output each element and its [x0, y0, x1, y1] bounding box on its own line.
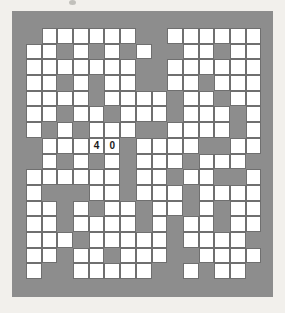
grid-cell-open[interactable]	[246, 138, 262, 154]
grid-cell-open[interactable]	[167, 59, 183, 75]
grid-cell-open[interactable]	[57, 138, 73, 154]
grid-cell-open[interactable]	[42, 91, 58, 107]
grid-cell-open[interactable]	[104, 201, 120, 217]
grid-cell-open[interactable]	[73, 248, 89, 264]
grid-cell-open[interactable]	[120, 91, 136, 107]
grid-cell-open[interactable]	[120, 263, 136, 279]
grid-cell-open[interactable]	[89, 248, 105, 264]
grid-cell-open[interactable]	[73, 216, 89, 232]
grid-cell-open[interactable]	[42, 106, 58, 122]
grid-cell-open[interactable]	[199, 154, 215, 170]
grid-cell-open[interactable]	[136, 169, 152, 185]
grid-cell-open[interactable]	[152, 154, 168, 170]
grid-cell-open[interactable]	[26, 44, 42, 60]
grid-cell-open[interactable]	[183, 28, 199, 44]
grid-cell-open[interactable]	[42, 216, 58, 232]
grid-cell-open[interactable]	[136, 232, 152, 248]
grid-cell-open[interactable]	[104, 154, 120, 170]
grid-cell-open[interactable]	[230, 91, 246, 107]
grid-cell-open[interactable]	[214, 28, 230, 44]
grid-cell-open[interactable]	[73, 169, 89, 185]
grid-cell-open[interactable]	[42, 154, 58, 170]
grid-cell-open[interactable]	[73, 106, 89, 122]
grid-cell-open[interactable]	[89, 59, 105, 75]
grid-cell-open[interactable]	[26, 75, 42, 91]
grid-cell-open[interactable]	[26, 263, 42, 279]
grid-cell-open[interactable]	[183, 122, 199, 138]
grid-cell-open[interactable]	[167, 75, 183, 91]
grid-cell-open[interactable]	[199, 185, 215, 201]
grid-cell-open[interactable]	[214, 106, 230, 122]
grid-cell-open[interactable]	[120, 122, 136, 138]
grid-cell-open[interactable]	[26, 185, 42, 201]
grid-cell-open[interactable]	[104, 216, 120, 232]
grid-cell-open[interactable]	[42, 59, 58, 75]
grid-cell-open[interactable]	[167, 154, 183, 170]
grid-cell-open[interactable]	[120, 248, 136, 264]
grid-cell-open[interactable]	[152, 91, 168, 107]
grid-cell-open[interactable]	[136, 91, 152, 107]
grid-cell-open[interactable]	[73, 263, 89, 279]
grid-cell-open[interactable]	[136, 154, 152, 170]
grid-cell-open[interactable]	[183, 106, 199, 122]
grid-cell-open[interactable]	[73, 44, 89, 60]
grid-cell-open[interactable]	[246, 91, 262, 107]
grid-cell-open[interactable]	[104, 44, 120, 60]
grid-cell-open[interactable]	[246, 106, 262, 122]
grid-cell-open[interactable]	[136, 185, 152, 201]
grid-cell-open[interactable]	[152, 216, 168, 232]
grid-cell-open[interactable]	[26, 122, 42, 138]
grid-cell-open[interactable]	[230, 28, 246, 44]
grid-cell-open[interactable]	[73, 75, 89, 91]
grid-cell-open[interactable]	[89, 232, 105, 248]
grid-cell-open[interactable]	[89, 263, 105, 279]
grid-cell-open[interactable]	[104, 75, 120, 91]
grid-cell-open[interactable]	[230, 59, 246, 75]
grid-cell-open[interactable]	[89, 216, 105, 232]
grid-cell-open[interactable]	[214, 59, 230, 75]
grid-cell-open[interactable]	[57, 122, 73, 138]
grid-cell-open[interactable]	[246, 122, 262, 138]
grid-cell-open[interactable]	[183, 169, 199, 185]
grid-cell-open[interactable]: 4	[89, 138, 105, 154]
grid-cell-open[interactable]	[199, 28, 215, 44]
grid-cell-open[interactable]	[214, 185, 230, 201]
grid-cell-open[interactable]	[152, 201, 168, 217]
grid-cell-open[interactable]	[136, 263, 152, 279]
grid-cell-open[interactable]	[26, 169, 42, 185]
grid-cell-open[interactable]	[230, 154, 246, 170]
grid-cell-open[interactable]	[26, 201, 42, 217]
grid-cell-open[interactable]	[183, 232, 199, 248]
grid-cell-open[interactable]	[26, 216, 42, 232]
grid-cell-open[interactable]	[136, 44, 152, 60]
grid-cell-open[interactable]	[152, 185, 168, 201]
grid-cell-open[interactable]	[183, 44, 199, 60]
grid-cell-open[interactable]	[230, 44, 246, 60]
grid-cell-open[interactable]	[199, 106, 215, 122]
grid-cell-open[interactable]	[120, 232, 136, 248]
grid-cell-open[interactable]	[26, 232, 42, 248]
grid-cell-open[interactable]	[152, 106, 168, 122]
grid-cell-open[interactable]	[246, 28, 262, 44]
grid-cell-open[interactable]	[199, 232, 215, 248]
grid-cell-open[interactable]	[89, 106, 105, 122]
grid-cell-open[interactable]	[183, 216, 199, 232]
grid-cell-open[interactable]	[199, 201, 215, 217]
grid-cell-open[interactable]	[104, 59, 120, 75]
grid-cell-open[interactable]	[57, 232, 73, 248]
grid-cell-open[interactable]	[230, 138, 246, 154]
grid-cell-open[interactable]	[152, 248, 168, 264]
grid-cell-open[interactable]	[104, 185, 120, 201]
grid-cell-open[interactable]	[167, 185, 183, 201]
grid-cell-open[interactable]	[120, 59, 136, 75]
grid-cell-open[interactable]	[89, 169, 105, 185]
grid-cell-open[interactable]	[183, 138, 199, 154]
grid-cell-open[interactable]	[183, 263, 199, 279]
grid-cell-open[interactable]	[230, 185, 246, 201]
grid-cell-open[interactable]	[120, 28, 136, 44]
grid-cell-open[interactable]	[104, 169, 120, 185]
grid-cell-open[interactable]	[183, 75, 199, 91]
grid-cell-open[interactable]	[246, 201, 262, 217]
grid-cell-open[interactable]	[73, 138, 89, 154]
grid-cell-open[interactable]	[167, 122, 183, 138]
